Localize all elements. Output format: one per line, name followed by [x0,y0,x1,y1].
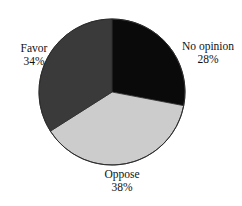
pie-label-no-opinion-value: 28% [174,53,242,66]
pie-label-favor-value: 34% [2,55,66,68]
pie-chart-figure: No opinion 28% Favor 34% Oppose 38% [0,0,242,206]
pie-label-favor-name: Favor [2,42,66,55]
pie-slices [39,19,185,165]
pie-label-oppose-value: 38% [82,181,162,194]
pie-label-favor: Favor 34% [2,42,66,68]
pie-label-no-opinion: No opinion 28% [174,40,242,66]
pie-label-oppose: Oppose 38% [82,168,162,194]
pie-label-no-opinion-name: No opinion [174,40,242,53]
pie-label-oppose-name: Oppose [82,168,162,181]
